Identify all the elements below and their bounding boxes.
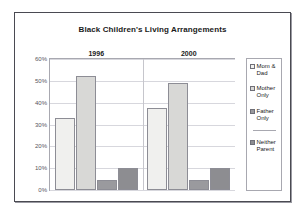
plot-area: 0%10%20%30%40%50%60% 19962000 — [49, 58, 235, 191]
bar — [189, 180, 209, 190]
legend-label: Father Only — [257, 108, 274, 121]
y-axis-tick-label: 40% — [35, 100, 47, 106]
bar-group: 2000 — [143, 59, 236, 190]
legend-item[interactable]: Mother Only — [250, 85, 279, 98]
legend-label: Neither Parent — [257, 139, 276, 152]
y-axis-tick-label: 60% — [35, 56, 47, 62]
bar — [97, 180, 117, 190]
legend-swatch-icon — [250, 109, 255, 114]
chart-legend: Mom & DadMother OnlyFather OnlyNeither P… — [246, 58, 282, 191]
legend-label: Mother Only — [257, 85, 276, 98]
y-axis-tick-label: 20% — [35, 143, 47, 149]
bar — [118, 168, 138, 190]
legend-divider — [253, 130, 276, 131]
legend-swatch-icon — [250, 64, 255, 69]
legend-item[interactable]: Neither Parent — [250, 139, 279, 152]
group-label: 2000 — [143, 50, 236, 57]
chart-title: Black Children's Living Arrangements — [15, 25, 290, 34]
legend-swatch-icon — [250, 140, 255, 145]
y-axis-tick-label: 10% — [35, 165, 47, 171]
y-axis-tick-label: 30% — [35, 122, 47, 128]
group-label: 1996 — [50, 50, 143, 57]
legend-label: Mom & Dad — [257, 63, 276, 76]
chart-figure: Black Children's Living Arrangements 0%1… — [14, 12, 291, 202]
y-axis-tick-label: 50% — [35, 78, 47, 84]
bar — [55, 118, 75, 190]
legend-item[interactable]: Mom & Dad — [250, 63, 279, 76]
bar — [210, 168, 230, 190]
bar-group: 1996 — [50, 59, 143, 190]
legend-swatch-icon — [250, 86, 255, 91]
bar — [76, 76, 96, 190]
y-axis-tick-label: 0% — [38, 187, 47, 193]
legend-item[interactable]: Father Only — [250, 108, 279, 121]
bar — [147, 108, 167, 190]
gridline — [50, 190, 235, 191]
bar — [168, 83, 188, 190]
